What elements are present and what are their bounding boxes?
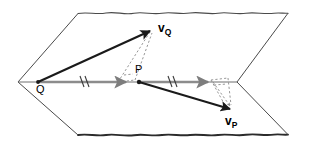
plane-edge-right-upper — [237, 13, 288, 82]
dashed-vq-inner-tick — [124, 74, 133, 75]
point-q-label: Q — [36, 84, 45, 95]
plane-bottom-edge — [78, 134, 288, 135]
vector-q-arrow — [38, 31, 150, 82]
vector-p-label-subscript: P — [232, 120, 238, 130]
point-marker-p — [137, 80, 141, 84]
diagram-canvas — [0, 0, 309, 151]
vector-q-label-subscript: Q — [165, 27, 172, 37]
transport-arrows — [38, 76, 208, 87]
dashed-vq-leg-left — [118, 32, 150, 82]
plane-edge-right-lower — [237, 82, 288, 135]
vector-p-label-base: v — [225, 114, 232, 128]
vector-p-label: vP — [225, 115, 237, 127]
plane-edge-left-lower — [18, 82, 78, 135]
plane-edge-left-upper — [18, 14, 78, 83]
dashed-vp-arrow — [213, 82, 230, 106]
dashed-vp-inner — [214, 84, 227, 85]
point-p-label: P — [135, 64, 142, 75]
dashed-vp-top — [211, 78, 228, 80]
vector-q-label-base: v — [158, 21, 165, 35]
plane-top-edge — [78, 13, 288, 14]
vector-diagram-figure: vQ vP P Q — [0, 0, 309, 151]
vector-q-label: vQ — [158, 22, 171, 34]
plane-outline — [18, 13, 288, 136]
